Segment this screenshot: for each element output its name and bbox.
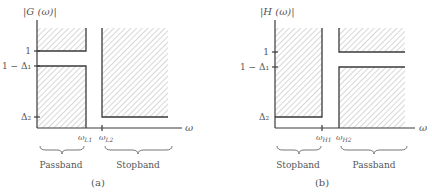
stopband-brace (105, 146, 172, 154)
passband-brace (341, 146, 407, 154)
y-axis-label: |G (ω)| (23, 6, 57, 18)
x-tick-label-wl2: ωL2 (99, 133, 114, 143)
passband-lower-forbidden-region (37, 66, 86, 128)
y-tick-label-1: 1 (25, 46, 31, 56)
x-tick-label-wh1: ωH1 (316, 133, 332, 143)
stopband-forbidden-region (102, 28, 168, 117)
passband-brace (40, 146, 84, 154)
y-tick-label-1-minus-delta1: 1 − Δ₁ (2, 61, 31, 71)
filter-spec-diagram: |G (ω)| ω 1 1 − Δ₁ Δ₂ ωL1 ωL2 Passband S… (0, 0, 432, 193)
x-tick-label-wh2: ωH2 (336, 133, 352, 143)
caption-b: (b) (315, 177, 329, 188)
x-axis-label: ω (419, 122, 427, 133)
stopband-label: Stopband (276, 160, 320, 170)
passband-label: Passband (353, 160, 396, 170)
panel-b-highpass: |H (ω)| ω 1 1 − Δ₁ Δ₂ ωH1 ωH2 Stopband P… (240, 6, 427, 188)
stopband-label: Stopband (116, 160, 160, 170)
y-tick-label-1: 1 (263, 47, 269, 57)
y-tick-label-delta2: Δ₂ (21, 112, 31, 122)
caption-a: (a) (91, 177, 105, 188)
y-tick-label-delta2: Δ₂ (259, 112, 269, 122)
passband-upper-forbidden-region (339, 28, 405, 52)
y-axis-label: |H (ω)| (260, 6, 295, 18)
passband-upper-forbidden-region (37, 28, 86, 51)
y-tick-label-1-minus-delta1: 1 − Δ₁ (240, 62, 269, 72)
passband-lower-forbidden-region (339, 67, 405, 128)
x-axis-label: ω (185, 122, 193, 133)
x-tick-label-wl1: ωL1 (78, 133, 92, 143)
passband-label: Passband (40, 160, 83, 170)
stopband-forbidden-region (275, 28, 322, 117)
stopband-brace (277, 146, 321, 154)
panel-a-lowpass: |G (ω)| ω 1 1 − Δ₁ Δ₂ ωL1 ωL2 Passband S… (2, 6, 193, 188)
